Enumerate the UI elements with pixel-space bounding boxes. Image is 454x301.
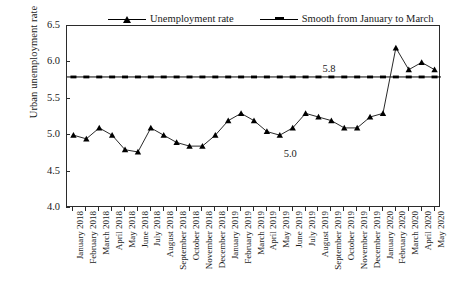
y-axis-tick-mark <box>66 171 70 172</box>
y-axis-tick-mark <box>66 98 70 99</box>
x-axis-tick-mark <box>85 207 86 211</box>
smooth-line-marker <box>303 76 309 79</box>
x-axis-tick-label: March 2020 <box>411 211 420 255</box>
y-axis-tick-mark <box>66 25 70 26</box>
x-axis-tick-mark <box>176 207 177 211</box>
x-axis-tick-label: July 2018 <box>153 211 162 246</box>
x-axis-tick-label: February 2018 <box>89 211 98 264</box>
legend-marker-line-icon <box>260 15 298 24</box>
smooth-line-series <box>67 76 441 79</box>
x-axis-tick-mark <box>72 207 73 211</box>
data-point-marker <box>406 66 412 72</box>
x-axis-tick-mark <box>356 207 357 211</box>
plot-svg <box>67 26 441 208</box>
smooth-line-marker <box>109 76 115 79</box>
x-axis-tick-mark <box>201 207 202 211</box>
data-point-marker <box>161 132 167 138</box>
x-axis-tick-mark <box>189 207 190 211</box>
x-axis-tick-mark <box>137 207 138 211</box>
x-axis-tick-label: January 2020 <box>386 211 395 259</box>
data-point-marker <box>380 110 386 116</box>
x-axis-tick-mark <box>421 207 422 211</box>
x-axis-tick-label: April 2020 <box>424 211 433 250</box>
smooth-line-marker <box>161 76 167 79</box>
x-axis-tick-label: September 2018 <box>179 211 188 270</box>
x-axis-tick-label: June 2018 <box>141 211 150 248</box>
x-axis-tick-mark <box>227 207 228 211</box>
smooth-line-marker <box>406 76 412 79</box>
x-axis-tick-mark <box>253 207 254 211</box>
x-axis-tick-label: October 2018 <box>192 211 201 260</box>
data-point-marker <box>238 110 244 116</box>
data-point-marker <box>251 117 257 123</box>
x-axis-tick-label: May 2020 <box>437 211 446 248</box>
x-axis-tick-label: February 2019 <box>244 211 253 264</box>
plot-area <box>66 25 440 207</box>
unemployment-rate-line <box>73 48 434 152</box>
smooth-line-marker <box>148 76 154 79</box>
y-axis-tick-mark <box>66 207 70 208</box>
smooth-line-marker <box>367 76 373 79</box>
x-axis-tick-label: December 2019 <box>373 211 382 268</box>
x-axis-tick-mark <box>305 207 306 211</box>
x-axis-tick-mark <box>382 207 383 211</box>
smooth-line-marker <box>83 76 89 79</box>
x-axis-tick-mark <box>369 207 370 211</box>
smooth-line-marker <box>225 76 231 79</box>
y-axis-tick-label: 4.5 <box>30 166 60 177</box>
x-axis-tick-label: January 2019 <box>231 211 240 259</box>
x-axis-tick-mark <box>395 207 396 211</box>
x-axis-tick-label: July 2019 <box>308 211 317 246</box>
smooth-line-marker <box>238 76 244 79</box>
smooth-line-marker <box>264 76 270 79</box>
chart-figure: Unemployment rate Smooth from January to… <box>0 0 454 301</box>
x-axis-tick-label: June 2019 <box>295 211 304 248</box>
smooth-line-marker <box>199 76 205 79</box>
legend-label-unemployment-rate: Unemployment rate <box>150 14 234 25</box>
x-axis-tick-mark <box>150 207 151 211</box>
x-axis-tick-mark <box>111 207 112 211</box>
legend-entry-smooth-line: Smooth from January to March <box>260 14 434 25</box>
smooth-line-marker <box>290 76 296 79</box>
data-point-marker <box>225 117 231 123</box>
smooth-line-marker <box>251 76 257 79</box>
x-axis-tick-mark <box>124 207 125 211</box>
smooth-line-marker <box>135 76 141 79</box>
x-axis-tick-label: December 2018 <box>218 211 227 268</box>
data-point-marker <box>148 125 154 131</box>
x-axis-tick-label: October 2019 <box>347 211 356 260</box>
y-axis-tick-mark <box>66 61 70 62</box>
data-point-marker <box>418 59 424 65</box>
y-axis-tick-label: 6.0 <box>30 56 60 67</box>
legend-label-smooth-line: Smooth from January to March <box>302 14 434 25</box>
data-point-marker <box>431 66 437 72</box>
legend-entry-unemployment-rate: Unemployment rate <box>108 14 234 25</box>
y-axis-tick-label: 5.5 <box>30 93 60 104</box>
smooth-line-marker <box>212 76 218 79</box>
chart-annotation-label: 5.0 <box>284 149 297 160</box>
x-axis-tick-mark <box>240 207 241 211</box>
smooth-line-marker <box>122 76 128 79</box>
data-point-marker <box>70 132 76 138</box>
x-axis-tick-label: March 2018 <box>102 211 111 255</box>
x-axis-tick-label: April 2018 <box>115 211 124 250</box>
data-point-marker <box>96 125 102 131</box>
unemployment-rate-series <box>70 45 438 155</box>
chart-legend: Unemployment rate Smooth from January to… <box>108 14 434 25</box>
smooth-line-marker <box>354 76 360 79</box>
x-axis-tick-mark <box>98 207 99 211</box>
y-axis-tick-label: 4.0 <box>30 202 60 213</box>
smooth-line-marker <box>341 76 347 79</box>
x-axis-tick-label: August 2019 <box>321 211 330 257</box>
legend-marker-triangle-icon <box>108 15 146 24</box>
x-axis-tick-mark <box>266 207 267 211</box>
smooth-line-marker <box>315 76 321 79</box>
smooth-line-marker <box>277 76 283 79</box>
x-axis-tick-mark <box>408 207 409 211</box>
x-axis-tick-label: November 2018 <box>205 211 214 269</box>
y-axis-tick-mark <box>66 134 70 135</box>
data-point-marker <box>173 139 179 145</box>
data-point-marker <box>393 45 399 51</box>
smooth-line-marker <box>432 76 438 79</box>
x-axis-tick-mark <box>292 207 293 211</box>
